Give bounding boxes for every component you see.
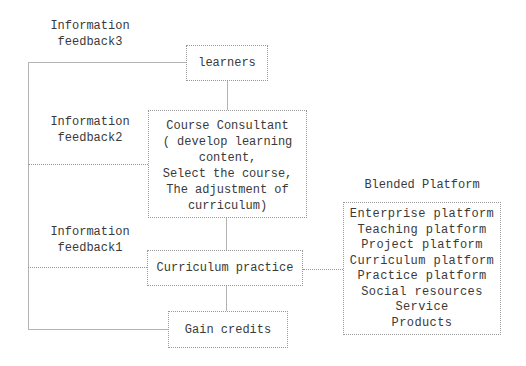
course-consultant-line3: content, bbox=[149, 150, 306, 166]
curriculum-practice-label: Curriculum practice bbox=[157, 261, 294, 275]
left-feedback-trunk-line bbox=[28, 62, 29, 329]
blended-platform-title: Blended Platform bbox=[343, 177, 501, 193]
blended-platform-box: Enterprise platform Teaching platform Pr… bbox=[343, 202, 501, 335]
information-feedback3-line2: feedback3 bbox=[35, 34, 145, 50]
information-feedback1-line2: feedback1 bbox=[35, 240, 145, 256]
information-feedback2-line1: Information bbox=[35, 114, 145, 130]
course-consultant-line2: ( develop learning bbox=[149, 134, 306, 150]
diagram-canvas: Information feedback3 Information feedba… bbox=[0, 0, 526, 366]
blended-platform-item-3: Project platform bbox=[344, 238, 500, 254]
curriculum-practice-box: Curriculum practice bbox=[147, 250, 303, 286]
information-feedback2-line2: feedback2 bbox=[35, 130, 145, 146]
feedback1-line bbox=[28, 267, 147, 268]
feedback2-line bbox=[28, 164, 148, 165]
blended-platform-item-2: Teaching platform bbox=[344, 223, 500, 239]
consultant-to-practice-connector bbox=[226, 218, 227, 250]
course-consultant-line5: The adjustment of bbox=[149, 182, 306, 198]
gain-credits-box: Gain credits bbox=[168, 311, 288, 348]
blended-platform-item-4: Curriculum platform bbox=[344, 254, 500, 270]
information-feedback3-label: Information feedback3 bbox=[35, 18, 145, 50]
practice-to-credits-connector bbox=[226, 286, 227, 311]
gain-credits-line bbox=[28, 329, 168, 330]
learners-box: learners bbox=[186, 45, 268, 81]
learners-box-label: learners bbox=[198, 56, 256, 70]
feedback3-line bbox=[28, 62, 186, 63]
information-feedback1-line1: Information bbox=[35, 224, 145, 240]
course-consultant-line1: Course Consultant bbox=[149, 118, 306, 134]
information-feedback1-label: Information feedback1 bbox=[35, 224, 145, 256]
blended-platform-item-1: Enterprise platform bbox=[344, 207, 500, 223]
blended-platform-item-8: Products bbox=[344, 316, 500, 332]
blended-platform-item-5: Practice platform bbox=[344, 269, 500, 285]
gain-credits-label: Gain credits bbox=[185, 323, 271, 337]
information-feedback3-line1: Information bbox=[35, 18, 145, 34]
information-feedback2-label: Information feedback2 bbox=[35, 114, 145, 146]
practice-to-platform-connector bbox=[303, 269, 343, 270]
course-consultant-line6: curriculum) bbox=[149, 198, 306, 214]
course-consultant-box: Course Consultant ( develop learning con… bbox=[148, 110, 307, 218]
learners-to-consultant-connector bbox=[227, 81, 228, 110]
course-consultant-line4: Select the course, bbox=[149, 166, 306, 182]
blended-platform-item-6: Social resources bbox=[344, 285, 500, 301]
blended-platform-item-7: Service bbox=[344, 300, 500, 316]
